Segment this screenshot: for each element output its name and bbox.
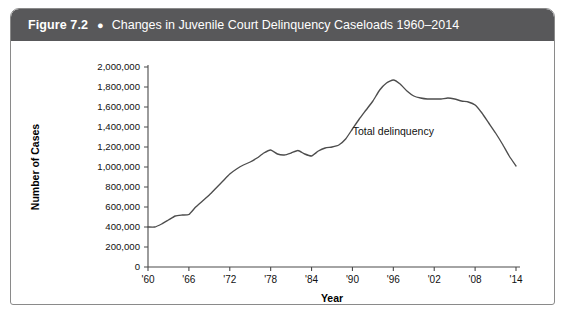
x-tick-label: '66	[182, 274, 195, 285]
x-tick-label: '60	[141, 274, 154, 285]
y-axis-ticks: 0200,000400,000600,000800,0001,000,0001,…	[97, 61, 148, 272]
total-delinquency-line	[148, 80, 516, 227]
x-tick-label: '08	[469, 274, 482, 285]
y-tick-label: 200,000	[105, 241, 140, 252]
x-tick-label: '84	[305, 274, 318, 285]
y-axis-title: Number of Cases	[29, 124, 41, 211]
x-tick-label: '14	[509, 274, 522, 285]
y-tick-label: 1,200,000	[97, 141, 140, 152]
x-tick-label: '72	[223, 274, 236, 285]
y-tick-label: 1,800,000	[97, 81, 140, 92]
x-axis-title: Year	[321, 292, 343, 304]
figure-title: Changes in Juvenile Court Delinquency Ca…	[112, 18, 459, 32]
figure-number: Figure 7.2	[28, 18, 88, 32]
y-tick-label: 1,400,000	[97, 121, 140, 132]
y-tick-label: 600,000	[105, 201, 140, 212]
y-tick-label: 2,000,000	[97, 61, 140, 72]
series-annotation-label: Total delinquency	[353, 125, 435, 137]
line-chart: 0200,000400,000600,000800,0001,000,0001,…	[11, 41, 554, 305]
x-axis-ticks: '60'66'72'78'84'90'96'02'08'14	[141, 267, 522, 285]
bullet-icon: ●	[97, 20, 104, 31]
y-tick-label: 1,600,000	[97, 101, 140, 112]
y-tick-label: 800,000	[105, 181, 140, 192]
chart-plot-area: 0200,000400,000600,000800,0001,000,0001,…	[11, 41, 554, 305]
y-tick-label: 0	[135, 261, 140, 272]
figure-title-bar: Figure 7.2 ● Changes in Juvenile Court D…	[11, 9, 554, 41]
y-tick-label: 400,000	[105, 221, 140, 232]
y-tick-label: 1,000,000	[97, 161, 140, 172]
x-tick-label: '90	[346, 274, 359, 285]
x-tick-label: '96	[387, 274, 400, 285]
figure-frame: Figure 7.2 ● Changes in Juvenile Court D…	[10, 8, 555, 305]
x-tick-label: '02	[428, 274, 441, 285]
x-tick-label: '78	[264, 274, 277, 285]
